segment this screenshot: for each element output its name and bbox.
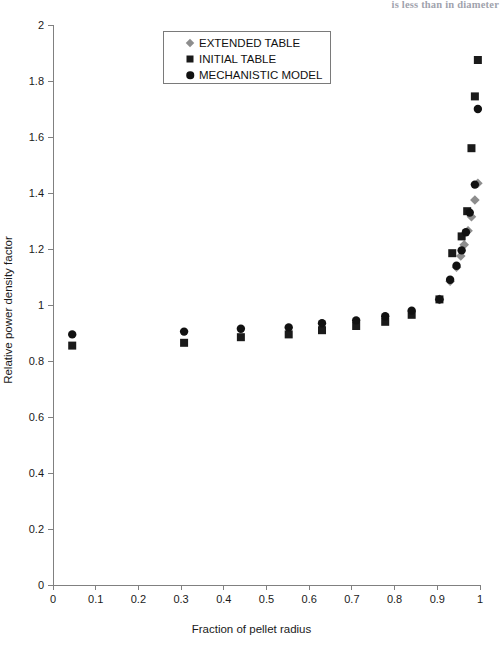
svg-text:2: 2: [38, 19, 44, 31]
data-point: [285, 323, 293, 331]
data-point: [466, 208, 474, 216]
svg-text:0.8: 0.8: [387, 593, 402, 605]
svg-text:0.4: 0.4: [216, 593, 231, 605]
svg-text:0.7: 0.7: [344, 593, 359, 605]
data-point: [448, 249, 456, 257]
legend-item-extended-table: EXTENDED TABLE: [184, 35, 330, 51]
data-points-group: [68, 56, 483, 350]
svg-text:0.1: 0.1: [88, 593, 103, 605]
data-point: [467, 144, 475, 152]
data-point: [180, 327, 188, 335]
data-point: [471, 180, 479, 188]
data-point: [237, 325, 245, 333]
svg-text:0.5: 0.5: [259, 593, 274, 605]
data-point: [471, 92, 479, 100]
data-point: [452, 262, 460, 270]
legend-item-initial-table: INITIAL TABLE: [184, 51, 330, 67]
series-extended-table: [435, 178, 483, 304]
legend-label-initial-table: INITIAL TABLE: [199, 52, 276, 67]
legend-label-mechanistic-model: MECHANISTIC MODEL: [199, 68, 322, 83]
data-point: [381, 312, 389, 320]
x-axis-title-text: Fraction of pellet radius: [192, 623, 312, 635]
data-point: [470, 195, 480, 205]
svg-text:0.2: 0.2: [131, 593, 146, 605]
svg-text:1.6: 1.6: [29, 131, 44, 143]
data-point: [457, 246, 465, 254]
data-point: [318, 319, 326, 327]
svg-text:0.6: 0.6: [302, 593, 317, 605]
svg-text:0.8: 0.8: [29, 355, 44, 367]
svg-text:1.4: 1.4: [29, 187, 44, 199]
scatter-plot-canvas: 00.10.20.30.40.50.60.70.80.9100.20.40.60…: [0, 0, 503, 647]
data-point: [407, 306, 415, 314]
svg-text:0.3: 0.3: [173, 593, 188, 605]
data-point: [68, 342, 76, 350]
square-marker-icon: [184, 53, 196, 65]
data-point: [462, 228, 470, 236]
legend-label-extended-table: EXTENDED TABLE: [199, 36, 300, 51]
data-point: [285, 330, 293, 338]
data-point: [446, 276, 454, 284]
x-axis-title: Fraction of pellet radius: [0, 623, 503, 635]
data-point: [474, 56, 482, 64]
svg-text:0.9: 0.9: [430, 593, 445, 605]
data-point: [68, 330, 76, 338]
diamond-marker-icon: [184, 37, 196, 49]
data-point: [474, 105, 482, 113]
svg-text:0: 0: [50, 593, 56, 605]
svg-text:1: 1: [38, 299, 44, 311]
svg-text:1.8: 1.8: [29, 75, 44, 87]
data-point: [435, 295, 443, 303]
data-point: [237, 333, 245, 341]
svg-text:0.6: 0.6: [29, 411, 44, 423]
series-initial-table: [68, 56, 482, 350]
data-point: [318, 326, 326, 334]
chart-legend: EXTENDED TABLE INITIAL TABLE MECHANISTIC…: [163, 31, 331, 84]
svg-text:0.2: 0.2: [29, 523, 44, 535]
series-mechanistic-model: [68, 105, 482, 339]
data-point: [352, 316, 360, 324]
legend-item-mechanistic-model: MECHANISTIC MODEL: [184, 67, 330, 83]
svg-text:0.4: 0.4: [29, 467, 44, 479]
svg-text:1.2: 1.2: [29, 243, 44, 255]
svg-text:1: 1: [477, 593, 483, 605]
chart-figure: 00.10.20.30.40.50.60.70.80.9100.20.40.60…: [0, 0, 503, 647]
circle-marker-icon: [184, 69, 196, 81]
data-point: [180, 339, 188, 347]
svg-text:0: 0: [38, 579, 44, 591]
